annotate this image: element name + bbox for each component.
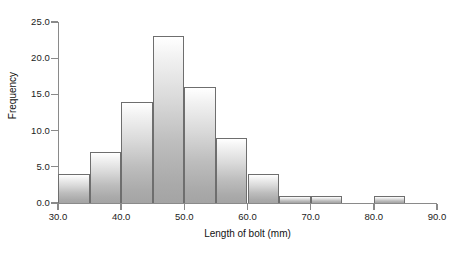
- histogram-bar: [153, 36, 185, 203]
- histogram-bar: [279, 196, 311, 203]
- histogram-bar: [184, 87, 216, 203]
- histogram-bar: [121, 102, 153, 203]
- histogram-bar: [311, 196, 343, 203]
- histogram-bar: [90, 152, 122, 203]
- histogram-bar: [248, 174, 280, 203]
- histogram-bar: [374, 196, 406, 203]
- histogram-bar: [58, 174, 90, 203]
- histogram-bar: [216, 138, 248, 203]
